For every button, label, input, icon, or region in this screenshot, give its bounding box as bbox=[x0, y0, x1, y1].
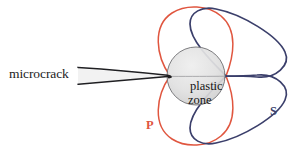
p-wave-label: P bbox=[146, 119, 154, 132]
s-wave-label: S bbox=[270, 105, 277, 118]
plastic-zone-label-line1: plastic bbox=[190, 80, 223, 93]
plastic-zone-label-line2: zone bbox=[188, 94, 212, 107]
microcrack-label: microcrack bbox=[9, 67, 69, 81]
microcrack-wave-diagram: microcrack plastic zone P S bbox=[0, 0, 293, 151]
